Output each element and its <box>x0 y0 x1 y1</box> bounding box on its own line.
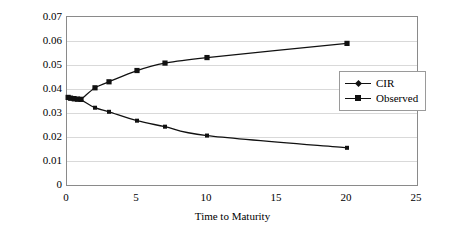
data-point-marker <box>135 119 139 123</box>
chart-figure: Yield 00.010.020.030.040.050.060.07 0510… <box>0 0 465 236</box>
data-point-marker <box>204 55 209 60</box>
plot-area: CIR Observed <box>66 16 418 186</box>
x-tick-label: 20 <box>341 192 352 203</box>
data-point-marker <box>107 110 111 114</box>
x-tick-label: 10 <box>201 192 212 203</box>
square-marker-icon <box>345 93 371 104</box>
series-line-cir <box>68 97 347 147</box>
data-point-marker <box>78 97 83 102</box>
data-point-marker <box>93 106 97 110</box>
x-tick-label: 5 <box>133 192 139 203</box>
data-point-marker <box>134 68 139 73</box>
legend-item-observed[interactable]: Observed <box>345 91 418 106</box>
chart-legend: CIR Observed <box>339 71 426 111</box>
x-tick-label: 15 <box>271 192 282 203</box>
data-point-marker <box>92 85 97 90</box>
data-point-marker <box>106 79 111 84</box>
x-tick-label: 25 <box>411 192 422 203</box>
legend-label: CIR <box>376 78 394 89</box>
data-point-marker <box>163 125 167 129</box>
data-point-marker <box>162 60 167 65</box>
diamond-marker-icon <box>345 78 371 89</box>
legend-item-cir[interactable]: CIR <box>345 76 418 91</box>
series-line-observed <box>68 43 347 100</box>
x-tick-label: 0 <box>63 192 69 203</box>
legend-label: Observed <box>376 93 418 104</box>
data-point-marker <box>205 134 209 138</box>
data-point-marker <box>344 41 349 46</box>
x-axis-title: Time to Maturity <box>0 210 465 222</box>
data-point-marker <box>345 146 349 150</box>
